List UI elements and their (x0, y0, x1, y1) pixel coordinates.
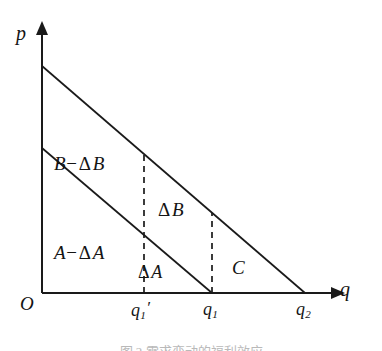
tick-label-q2: q2 (296, 300, 311, 320)
region-b-base: B (54, 153, 66, 174)
region-b-tail: B (93, 153, 105, 174)
region-label-b-minus-delta-b: B−ΔB (54, 154, 104, 173)
region-delta-b-tail: B (172, 199, 184, 220)
welfare-diagram-figure: p q O B−ΔB A−ΔA ΔB ΔA C q1′ q1 q2 图 2 需求… (0, 0, 382, 351)
delta-symbol: Δ (79, 242, 91, 263)
tick-subscript: 2 (305, 308, 311, 320)
tick-subscript: 1 (212, 308, 218, 320)
region-a-base: A (54, 242, 66, 263)
delta-symbol: Δ (138, 262, 150, 282)
minus-sign: − (66, 153, 77, 174)
tick-base: q (203, 299, 212, 319)
diagram-canvas (0, 0, 382, 351)
region-delta-a-tail: A (151, 262, 162, 282)
minus-sign: − (66, 242, 77, 263)
region-label-c: C (232, 258, 245, 277)
tick-label-q1-prime: q1′ (131, 299, 150, 321)
delta-symbol: Δ (79, 153, 91, 174)
tick-label-q1: q1 (203, 300, 218, 320)
region-label-delta-b: ΔB (158, 200, 184, 219)
region-label-a-minus-delta-a: A−ΔA (54, 243, 104, 262)
y-axis-label: p (16, 23, 26, 43)
region-label-delta-a: ΔA (138, 263, 162, 281)
tick-base: q (296, 299, 305, 319)
delta-symbol: Δ (158, 199, 170, 220)
prime-mark: ′ (146, 298, 150, 317)
x-axis-label: q (340, 279, 350, 299)
tick-base: q (131, 300, 140, 320)
region-a-tail: A (93, 242, 105, 263)
figure-caption: 图 2 需求变动的福利效应 (0, 341, 382, 351)
tick-subscript: 1 (140, 309, 146, 321)
origin-label: O (20, 294, 34, 313)
